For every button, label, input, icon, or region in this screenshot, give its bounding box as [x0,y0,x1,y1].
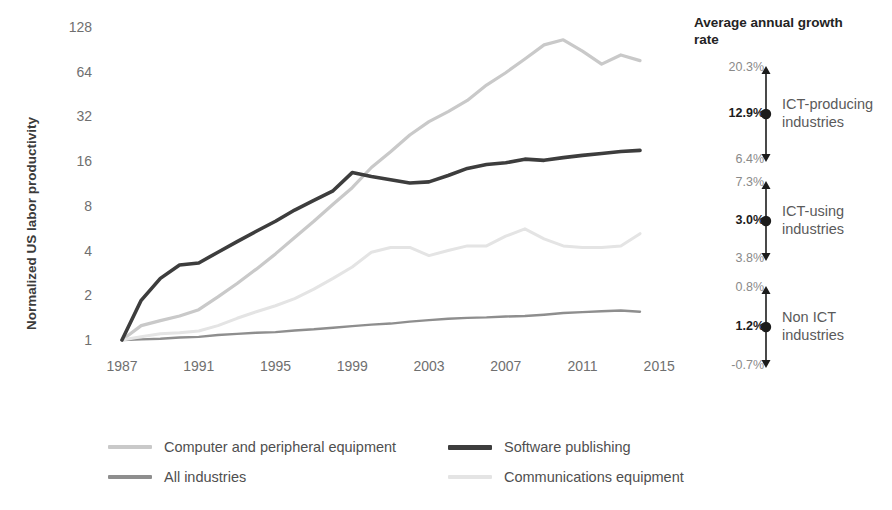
x-tick-label: 2007 [490,358,521,374]
growth-rate-mid: 1.2% [736,319,765,333]
legend-swatch-icon [108,475,152,479]
x-tick-label: 1995 [260,358,291,374]
legend-label: All industries [164,469,246,485]
growth-rate-low: -0.7% [731,358,764,372]
growth-rate-group: 0.8%1.2%-0.7%Non ICTindustries [694,286,892,368]
growth-rate-group-label: Non ICTindustries [782,308,844,344]
legend-label: Communications equipment [504,469,684,485]
growth-rate-low: 3.8% [736,251,765,265]
growth-rate-title: Average annual growth rate [694,14,844,48]
legend-swatch-icon [448,475,492,479]
legend-item[interactable]: All industries [108,468,246,485]
group-label-line1: ICT-producing [782,95,873,113]
legend-label: Software publishing [504,439,631,455]
x-tick-label: 2011 [567,358,597,374]
growth-rate-high: 20.3% [729,60,764,74]
group-label-line2: industries [782,113,873,131]
group-label-line1: Non ICT [782,308,844,326]
legend-swatch-icon [448,445,492,450]
x-tick-label: 2003 [413,358,444,374]
growth-rate-group-label: ICT-producingindustries [782,95,873,131]
group-label-line1: ICT-using [782,202,844,220]
chart-legend: Computer and peripheral equipmentAll ind… [0,420,892,490]
growth-rate-panel: Average annual growth rate 20.3%12.9%6.4… [694,14,892,404]
chart-lines [0,0,700,400]
x-tick-label: 1991 [183,358,214,374]
growth-rate-mid: 3.0% [736,213,765,227]
legend-swatch-icon [108,445,152,449]
group-label-line2: industries [782,326,844,344]
growth-rate-group-label: ICT-usingindustries [782,202,844,238]
legend-label: Computer and peripheral equipment [164,439,396,455]
x-tick-label: 1987 [106,358,137,374]
x-tick-label: 2015 [644,358,675,374]
growth-rate-high: 0.8% [736,280,765,294]
chart-plot-area: 1286432168421 19871991199519992003200720… [0,0,700,400]
legend-item[interactable]: Software publishing [448,438,631,455]
chart-line-computer-and-peripheral-equipment [122,40,640,340]
growth-rate-group: 20.3%12.9%6.4%ICT-producingindustries [694,66,892,162]
growth-rate-group: 7.3%3.0%3.8%ICT-usingindustries [694,181,892,261]
growth-rate-low: 6.4% [736,152,765,166]
group-label-line2: industries [782,220,844,238]
x-tick-label: 1999 [337,358,368,374]
growth-rate-mid: 12.9% [729,106,764,120]
legend-item[interactable]: Communications equipment [448,468,684,485]
growth-rate-high: 7.3% [736,175,765,189]
chart-line-all-industries [122,310,640,340]
legend-item[interactable]: Computer and peripheral equipment [108,438,396,455]
